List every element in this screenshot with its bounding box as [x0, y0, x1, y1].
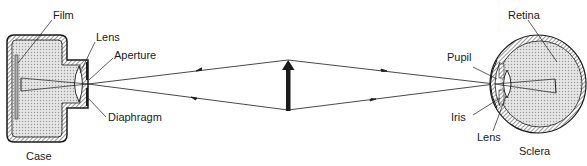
- sclera-label: Sclera: [519, 145, 551, 157]
- eye: Retina Pupil Iris Lens Sclera: [447, 9, 586, 157]
- aperture-leader: [89, 58, 113, 80]
- diagram-canvas: Film Lens Aperture Diaphragm Case: [0, 0, 587, 166]
- ray-eye-bottom: [288, 84, 495, 110]
- film-label: Film: [53, 9, 74, 21]
- ray-camera-top: [88, 60, 288, 84]
- iris-lower: [499, 90, 504, 104]
- iris-label: Iris: [451, 111, 466, 123]
- ray-arrowhead-icon: [381, 69, 387, 72]
- eye-lens-label: Lens: [477, 131, 501, 143]
- diaphragm-leader: [88, 98, 106, 117]
- retina-label: Retina: [508, 9, 541, 21]
- ray-arrowhead-icon: [191, 97, 197, 100]
- pupil-label: Pupil: [447, 51, 471, 63]
- ray-camera-bottom: [88, 84, 288, 110]
- iris-upper: [499, 64, 504, 78]
- ray-arrowhead-icon: [196, 68, 202, 71]
- case-label: Case: [26, 150, 52, 162]
- object-arrow: [282, 60, 295, 111]
- ray-arrowhead-icon: [370, 99, 376, 102]
- camera: Film Lens Aperture Diaphragm Case: [7, 9, 162, 162]
- aperture-label: Aperture: [114, 49, 156, 61]
- ray-eye-top: [288, 60, 495, 84]
- film: [15, 55, 18, 119]
- diaphragm-label: Diaphragm: [108, 111, 162, 123]
- arrow-up-icon: [282, 60, 295, 70]
- camera-lens-label: Lens: [96, 31, 120, 43]
- object-arrow-shaft: [286, 68, 291, 111]
